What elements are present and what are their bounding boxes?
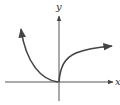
curve-right-branch [59,46,112,82]
graph-figure: y x [0,0,120,105]
curve-left-branch [21,29,58,82]
graph-canvas [0,0,120,105]
y-axis-label: y [56,2,62,12]
x-axis-label: x [115,77,120,87]
